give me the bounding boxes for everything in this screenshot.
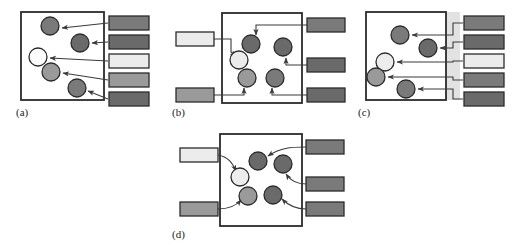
port-c3[interactable]: [464, 54, 504, 68]
node-a4[interactable]: [42, 63, 60, 81]
port-d-r3[interactable]: [306, 202, 344, 216]
node-c4[interactable]: [367, 68, 385, 86]
node-a1[interactable]: [41, 17, 59, 35]
port-a2[interactable]: [109, 35, 149, 49]
node-d1[interactable]: [249, 152, 267, 170]
port-a3[interactable]: [109, 54, 149, 68]
node-a2[interactable]: [71, 34, 89, 52]
panel-c: [366, 12, 504, 106]
panels-root: [21, 12, 504, 226]
port-c1[interactable]: [464, 16, 504, 30]
panel-caption-d: (d): [172, 228, 185, 240]
port-c2[interactable]: [464, 35, 504, 49]
port-d-r1[interactable]: [306, 140, 344, 154]
port-b-l2[interactable]: [176, 88, 214, 102]
node-c2[interactable]: [419, 39, 437, 57]
panel-b: [176, 13, 345, 103]
panel-a: [21, 12, 149, 106]
port-a1[interactable]: [109, 16, 149, 30]
port-c4[interactable]: [464, 73, 504, 87]
node-d5[interactable]: [264, 186, 282, 204]
node-c1[interactable]: [391, 26, 409, 44]
node-d2[interactable]: [274, 155, 292, 173]
node-a5[interactable]: [68, 79, 86, 97]
node-b3[interactable]: [230, 51, 248, 69]
panel-caption-c: (c): [358, 106, 370, 118]
node-d3[interactable]: [231, 168, 249, 186]
figure-canvas: [0, 0, 525, 251]
node-b1[interactable]: [242, 35, 260, 53]
panel-caption-b: (b): [172, 106, 185, 118]
node-d4[interactable]: [239, 187, 257, 205]
port-c5[interactable]: [464, 92, 504, 106]
port-d-r2[interactable]: [306, 177, 344, 191]
node-b4[interactable]: [238, 69, 256, 87]
port-b-r1[interactable]: [307, 18, 345, 32]
panel-d: [180, 134, 344, 226]
node-b5[interactable]: [266, 69, 284, 87]
port-b-r3[interactable]: [307, 88, 345, 102]
port-a5[interactable]: [109, 92, 149, 106]
port-d-l1[interactable]: [180, 148, 218, 162]
port-b-l1[interactable]: [176, 32, 214, 46]
node-a3[interactable]: [29, 48, 47, 66]
node-b2[interactable]: [274, 38, 292, 56]
port-b-r2[interactable]: [307, 58, 345, 72]
node-c5[interactable]: [397, 80, 415, 98]
port-a4[interactable]: [109, 73, 149, 87]
port-d-l2[interactable]: [180, 202, 218, 216]
panel-caption-a: (a): [16, 106, 28, 118]
